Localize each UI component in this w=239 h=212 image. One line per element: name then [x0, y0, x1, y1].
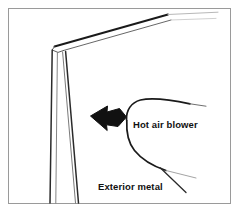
label-hot-air-blower: Hot air blower — [133, 120, 198, 130]
label-exterior-metal: Exterior metal — [98, 182, 163, 192]
figure-container: Hot air blower Exterior metal — [0, 0, 239, 212]
figure-border — [9, 9, 231, 204]
